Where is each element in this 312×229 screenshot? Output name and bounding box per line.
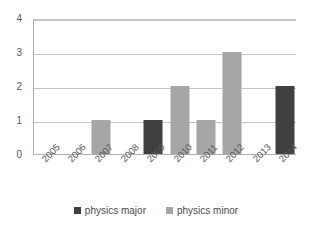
bar-group-2008 — [114, 20, 140, 154]
plot-area — [33, 19, 296, 155]
legend-item-minor[interactable]: physics minor — [166, 205, 238, 216]
bar-group-2013 — [245, 20, 271, 154]
x-axis-labels: 2005200620072008200920102011201220132014 — [34, 157, 296, 201]
legend-swatch-icon — [166, 207, 173, 214]
bar-group-2014 — [272, 20, 298, 154]
y-axis-tick-label: 2 — [16, 82, 22, 92]
bars-layer — [35, 20, 296, 154]
legend-label: physics major — [85, 205, 146, 216]
y-axis-labels: 01234 — [0, 19, 28, 155]
bar-chart: 01234 2005200620072008200920102011201220… — [0, 0, 312, 229]
bar-group-2010 — [167, 20, 193, 154]
y-axis-tick-label: 4 — [16, 14, 22, 24]
y-axis-tick-label: 1 — [16, 116, 22, 126]
bar-group-2005 — [35, 20, 61, 154]
bar-group-2007 — [88, 20, 114, 154]
bar-group-2009 — [140, 20, 166, 154]
bar-group-2012 — [219, 20, 245, 154]
legend-label: physics minor — [177, 205, 238, 216]
legend-swatch-icon — [74, 207, 81, 214]
bar-group-2011 — [193, 20, 219, 154]
bar-group-2006 — [61, 20, 87, 154]
y-axis-tick-label: 3 — [16, 48, 22, 58]
bar — [223, 52, 242, 154]
chart-legend: physics majorphysics minor — [0, 205, 312, 216]
legend-item-major[interactable]: physics major — [74, 205, 146, 216]
y-axis-tick-label: 0 — [16, 150, 22, 160]
